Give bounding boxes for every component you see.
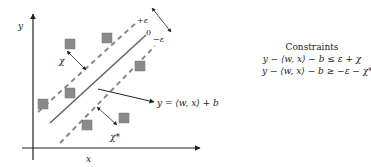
lower-epsilon-label: −ε <box>153 36 164 44</box>
data-point-icon <box>82 120 92 130</box>
constraint-upper: y − ⟨w, x⟩ − b ≤ ε + χ <box>262 53 362 65</box>
constraint-lower: y − ⟨w, x⟩ − b ≥ −ε − χ* <box>262 65 362 77</box>
upper-epsilon-label: +ε <box>137 17 148 25</box>
x-axis-label: x <box>86 155 91 164</box>
data-point-icon <box>135 61 145 71</box>
data-points <box>38 33 145 130</box>
data-point-icon <box>65 88 75 98</box>
data-point-icon <box>38 99 48 109</box>
slack-upper-arrow <box>67 51 86 70</box>
svr-diagram <box>0 0 371 167</box>
slack-upper-label: χ <box>59 57 64 66</box>
y-axis-label: y <box>18 22 23 31</box>
epsilon-width-arrow <box>152 8 171 32</box>
data-point-icon <box>119 113 129 123</box>
regression-line <box>50 35 146 123</box>
upper-epsilon-line <box>38 22 137 112</box>
data-point-icon <box>102 33 112 43</box>
slack-lower-arrow <box>97 107 117 125</box>
center-zero-label: 0 <box>146 29 151 37</box>
constraints-panel: Constraints y − ⟨w, x⟩ − b ≤ ε + χ y − ⟨… <box>262 41 362 77</box>
data-point-icon <box>65 39 75 49</box>
slack-lower-label: χ* <box>110 133 120 142</box>
regression-label: y = ⟨w, x⟩ + b <box>157 99 219 108</box>
constraints-title: Constraints <box>262 41 362 53</box>
